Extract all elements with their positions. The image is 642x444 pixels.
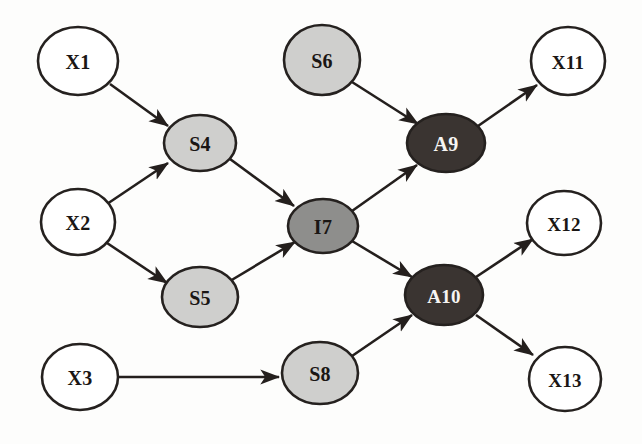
node-a10[interactable]: A10 (405, 265, 483, 325)
node-label-x2: X2 (65, 212, 90, 234)
diagram-canvas: X1X2X3S4S5S6S8I7A9A10X11X12X13 (0, 0, 642, 444)
edge-x2-to-s5 (107, 243, 167, 283)
node-x1[interactable]: X1 (38, 27, 118, 95)
node-label-x13: X13 (548, 370, 582, 391)
node-label-a10: A10 (427, 286, 461, 307)
node-label-s4: S4 (189, 133, 211, 155)
node-label-x11: X11 (552, 52, 585, 73)
edge-a10-to-x13 (476, 315, 533, 355)
edge-x2-to-s4 (107, 163, 168, 204)
node-x3[interactable]: X3 (42, 344, 118, 410)
node-label-i7: I7 (314, 216, 332, 238)
node-x12[interactable]: X12 (527, 191, 601, 255)
node-label-s8: S8 (309, 363, 331, 385)
node-s8[interactable]: S8 (282, 342, 358, 404)
edge-s5-to-i7 (230, 242, 295, 281)
node-a9[interactable]: A9 (407, 114, 485, 172)
node-label-x12: X12 (547, 214, 581, 235)
node-x2[interactable]: X2 (41, 189, 115, 255)
edge-a9-to-x11 (478, 85, 537, 126)
node-label-x1: X1 (65, 51, 90, 73)
node-s4[interactable]: S4 (164, 115, 236, 171)
edge-s6-to-a9 (352, 82, 418, 124)
edge-x1-to-s4 (110, 84, 168, 126)
nodes-layer: X1X2X3S4S5S6S8I7A9A10X11X12X13 (38, 25, 605, 411)
node-label-a9: A9 (433, 133, 458, 155)
edge-i7-to-a9 (352, 165, 417, 211)
node-x13[interactable]: X13 (529, 347, 601, 411)
node-i7[interactable]: I7 (288, 199, 358, 253)
edge-s8-to-a10 (352, 315, 412, 356)
edge-s4-to-i7 (230, 159, 294, 206)
node-label-s6: S6 (311, 50, 333, 72)
node-s6[interactable]: S6 (284, 25, 360, 95)
node-label-x3: X3 (67, 367, 92, 389)
node-x11[interactable]: X11 (531, 27, 605, 95)
edge-a10-to-x12 (476, 239, 533, 277)
node-s5[interactable]: S5 (162, 267, 238, 327)
graph-svg: X1X2X3S4S5S6S8I7A9A10X11X12X13 (0, 0, 642, 444)
edge-i7-to-a10 (352, 241, 412, 277)
node-label-s5: S5 (189, 287, 211, 309)
